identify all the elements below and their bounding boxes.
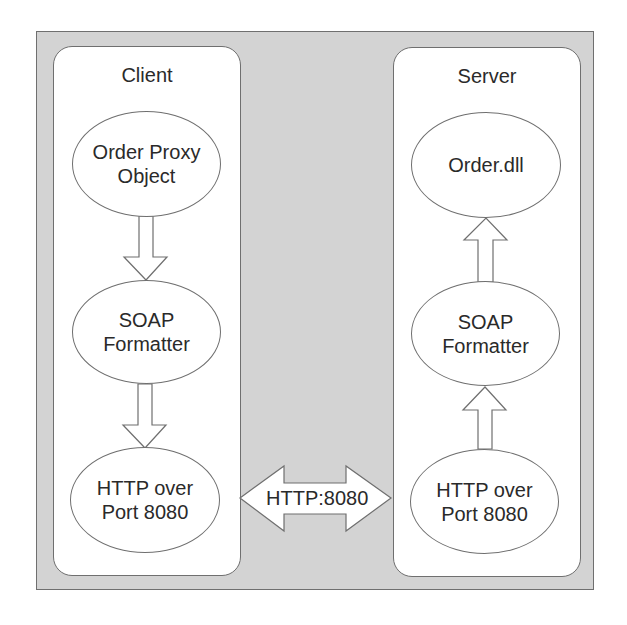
server-node-http-port: HTTP over Port 8080 (410, 449, 559, 554)
server-node-order-dll: Order.dll (411, 112, 561, 218)
client-title: Client (54, 64, 240, 87)
server-node-soap-formatter: SOAP Formatter (411, 281, 560, 386)
client-node-order-proxy: Order Proxy Object (72, 111, 221, 217)
client-node-http-port: HTTP over Port 8080 (70, 447, 220, 553)
server-title: Server (394, 65, 580, 88)
http-link-label: HTTP:8080 (266, 487, 366, 510)
client-node-soap-formatter: SOAP Formatter (72, 280, 221, 384)
